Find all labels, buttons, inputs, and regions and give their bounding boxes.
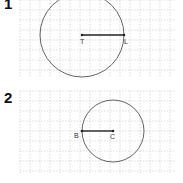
figure-1-point-label: T: [80, 38, 85, 45]
figure-2-point-1: [81, 130, 84, 133]
figure-1-point-1: [81, 34, 84, 37]
figure-2-point-2: [112, 130, 115, 133]
figure-2-point-label: C: [110, 133, 115, 140]
figure-2-point-label: B: [74, 132, 79, 139]
figure-1-point-2: [123, 34, 126, 37]
diagram-canvas: TLBC: [0, 0, 183, 183]
figure-1-point-label: L: [124, 38, 128, 45]
